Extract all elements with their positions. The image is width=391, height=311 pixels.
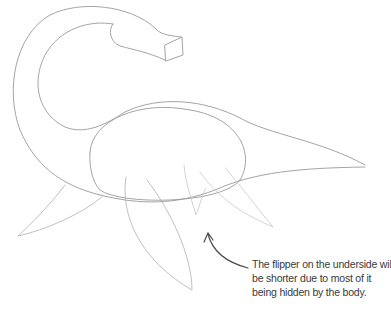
rear-left-flipper [184, 165, 206, 215]
body-oval [90, 107, 246, 200]
head-back-line [155, 28, 181, 37]
annotation-line: The flipper on the underside will [252, 257, 391, 271]
front-center-flipper [125, 177, 192, 290]
neck-outer-line [13, 6, 155, 195]
annotation-arrow [204, 233, 248, 268]
annotation-caption: The flipper on the underside will be sho… [252, 257, 391, 299]
belly-line [100, 167, 365, 202]
annotation-line: being hidden by the body. [252, 285, 391, 299]
rear-right-flipper [200, 168, 273, 227]
front-left-flipper [18, 185, 102, 236]
illustration-canvas: The flipper on the underside will be sho… [0, 0, 391, 311]
snout-box [165, 37, 183, 61]
annotation-line: be shorter due to most of it [252, 271, 391, 285]
